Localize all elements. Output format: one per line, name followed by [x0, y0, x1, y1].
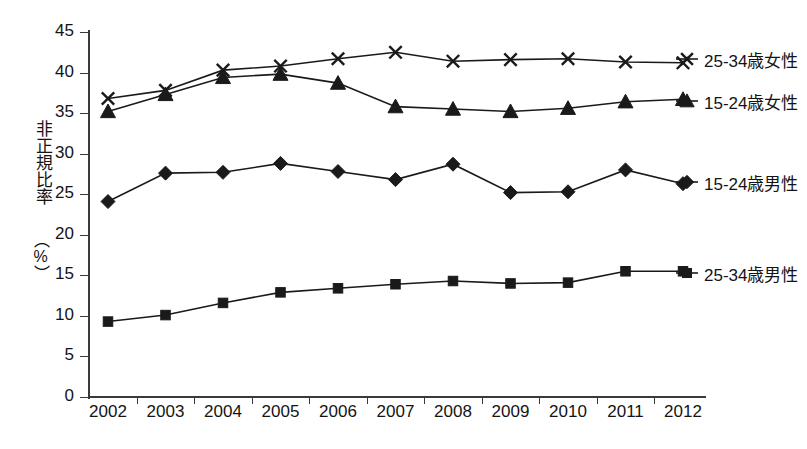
data-point [504, 186, 518, 200]
legend-label: 15-24歳女性 [704, 89, 798, 114]
legend-item-triangle: 15-24歳女性 [676, 90, 798, 112]
triangle-marker-icon [676, 91, 698, 111]
data-point [333, 284, 343, 294]
data-point [446, 157, 460, 171]
data-point [274, 156, 288, 170]
series-line-3 [108, 271, 683, 321]
data-point [389, 173, 403, 187]
data-point [276, 288, 286, 298]
data-point [331, 165, 345, 179]
data-point [621, 267, 631, 277]
line-chart: 非正規比率 （%） 051015202530354045 20022003200… [0, 0, 807, 449]
data-point [448, 276, 458, 286]
legend-item-diamond: 15-24歳男性 [676, 171, 798, 193]
data-point [216, 165, 230, 179]
data-point [101, 195, 115, 209]
legend-item-square: 25-34歳男性 [676, 262, 798, 284]
data-point [388, 99, 403, 113]
data-point [391, 280, 401, 290]
legend-label: 25-34歳男性 [704, 261, 798, 286]
series-line-0 [108, 52, 683, 98]
data-point [561, 185, 575, 199]
data-point [159, 166, 173, 180]
data-point [103, 317, 113, 327]
data-point [273, 67, 288, 81]
data-point [218, 298, 228, 308]
legend-label: 15-24歳男性 [704, 170, 798, 195]
x-marker-icon [676, 49, 698, 69]
data-point [506, 279, 516, 289]
legend-label: 25-34歳女性 [704, 47, 798, 72]
data-point [619, 163, 633, 177]
square-marker-icon [676, 263, 698, 283]
data-point [101, 104, 116, 118]
diamond-marker-icon [676, 172, 698, 192]
data-point [161, 310, 171, 320]
legend-item-x: 25-34歳女性 [676, 48, 798, 70]
data-point [563, 278, 573, 288]
